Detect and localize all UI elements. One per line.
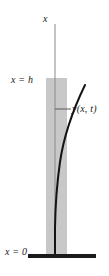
figure-canvas: x x = h y(x, t) x = 0: [0, 0, 109, 276]
beam-shaded-band: [46, 78, 67, 256]
x-equals-h-label: x = h: [11, 75, 33, 85]
ground-baseline: [28, 254, 96, 258]
beam-diagram-svg: [0, 0, 109, 276]
axis-x-label: x: [43, 14, 48, 24]
x-equals-zero-label: x = 0: [5, 247, 27, 257]
y-of-x-t-label: y(x, t): [72, 104, 97, 114]
